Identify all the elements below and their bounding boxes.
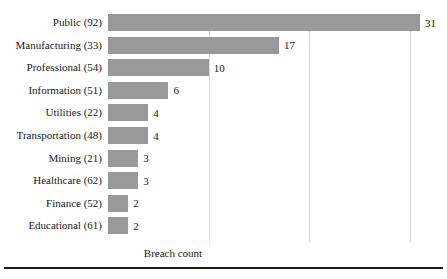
category-label: Educational (61) bbox=[0, 217, 102, 234]
category-label: Professional (54) bbox=[0, 59, 102, 76]
bar bbox=[108, 14, 420, 31]
bar-row: 3Mining (21) bbox=[108, 150, 420, 167]
category-label: Utilities (22) bbox=[0, 104, 102, 121]
category-label: Public (92) bbox=[0, 14, 102, 31]
bar bbox=[108, 82, 168, 99]
bar bbox=[108, 37, 279, 54]
bar-row: 4Transportation (48) bbox=[108, 127, 420, 144]
bar-rows: 31Public (92)17Manufacturing (33)10Profe… bbox=[108, 14, 420, 242]
bar bbox=[108, 150, 138, 167]
bar bbox=[108, 127, 148, 144]
bar-value-label: 10 bbox=[214, 62, 225, 73]
bar bbox=[108, 217, 128, 234]
category-label: Manufacturing (33) bbox=[0, 37, 102, 54]
bar-value-label: 2 bbox=[133, 198, 139, 209]
category-label: Finance (52) bbox=[0, 195, 102, 212]
bar-value-label: 4 bbox=[153, 130, 159, 141]
bar bbox=[108, 104, 148, 121]
bar-row: 10Professional (54) bbox=[108, 59, 420, 76]
bar-value-label: 6 bbox=[173, 85, 179, 96]
bar-row: 2Educational (61) bbox=[108, 217, 420, 234]
bar-row: 3Healthcare (62) bbox=[108, 172, 420, 189]
category-label: Information (51) bbox=[0, 82, 102, 99]
bar-row: 17Manufacturing (33) bbox=[108, 37, 420, 54]
bar-value-label: 17 bbox=[284, 40, 295, 51]
bar bbox=[108, 172, 138, 189]
bar bbox=[108, 195, 128, 212]
bottom-divider-rule bbox=[4, 267, 443, 269]
bar-value-label: 2 bbox=[133, 220, 139, 231]
bar-row: 31Public (92) bbox=[108, 14, 420, 31]
category-label: Mining (21) bbox=[0, 150, 102, 167]
bar-value-label: 4 bbox=[153, 107, 159, 118]
bar-value-label: 3 bbox=[143, 175, 149, 186]
x-axis-title: Breach count bbox=[108, 246, 238, 260]
bar-row: 2Finance (52) bbox=[108, 195, 420, 212]
category-label: Healthcare (62) bbox=[0, 172, 102, 189]
bar-row: 6Information (51) bbox=[108, 82, 420, 99]
bar-chart-figure: 31Public (92)17Manufacturing (33)10Profe… bbox=[0, 0, 447, 279]
bar-value-label: 3 bbox=[143, 153, 149, 164]
plot-area: 31Public (92)17Manufacturing (33)10Profe… bbox=[108, 14, 420, 242]
bar-value-label: 31 bbox=[425, 17, 436, 28]
bar-row: 4Utilities (22) bbox=[108, 104, 420, 121]
category-label: Transportation (48) bbox=[0, 127, 102, 144]
bar bbox=[108, 59, 209, 76]
